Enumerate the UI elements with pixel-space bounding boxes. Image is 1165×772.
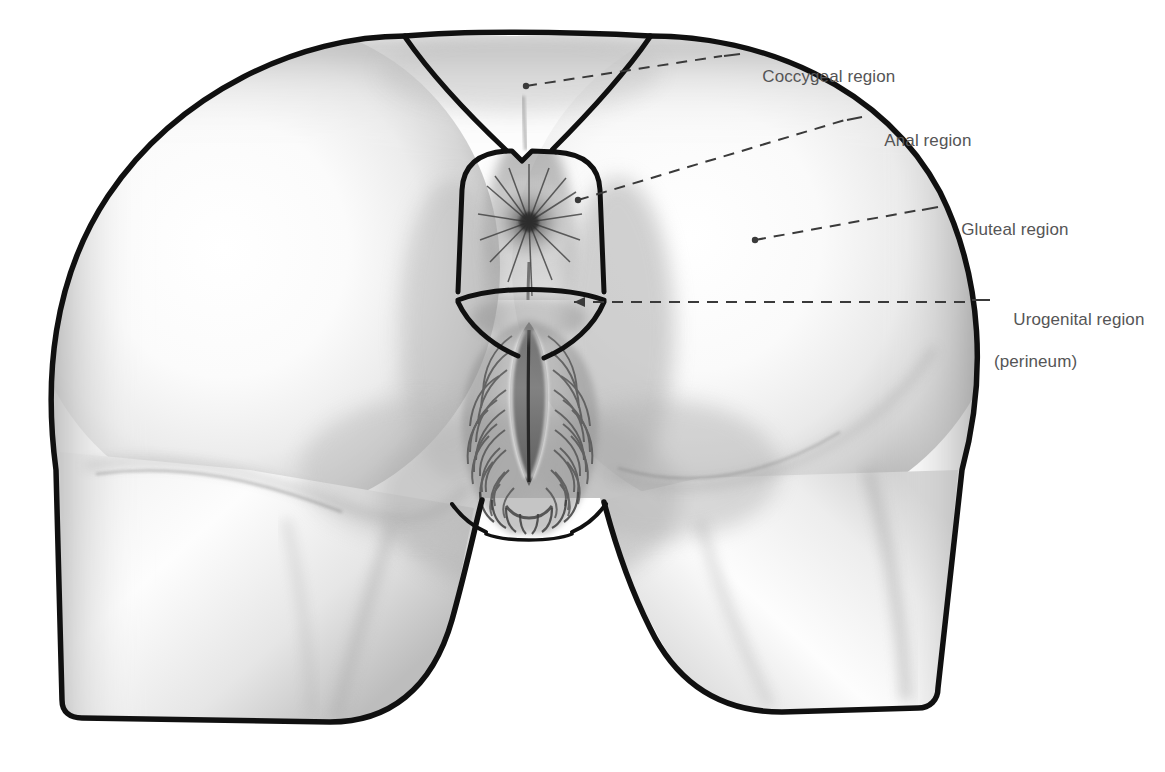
label-gluteal-region: Gluteal region (942, 198, 1069, 261)
vestibular-midline (528, 330, 529, 482)
label-urogenital-line2: (perineum) (994, 351, 1144, 372)
superior-border (405, 32, 650, 36)
label-coccygeal-line1: Coccygeal region (762, 67, 895, 86)
leader-dot-gluteal (752, 237, 758, 243)
inferior-genital-border (486, 534, 572, 540)
perineal-body-shading (471, 296, 587, 340)
label-coccygeal-region: Coccygeal region (743, 45, 895, 108)
leader-dot-coccygeal (523, 83, 529, 89)
median-raphe-upper (528, 262, 529, 300)
label-anal-line1: Anal region (884, 131, 971, 150)
anus-center (519, 212, 539, 232)
right-genital-thigh-junction (572, 504, 606, 532)
label-gluteal-line1: Gluteal region (961, 220, 1068, 239)
anatomical-figure: Coccygeal region Anal region Gluteal reg… (0, 0, 1165, 772)
label-urogenital-line1: Urogenital region (1013, 310, 1144, 329)
label-urogenital-region: Urogenital region (perineum) (994, 288, 1144, 414)
perineum-illustration-svg (0, 0, 1165, 772)
label-anal-region: Anal region (866, 109, 971, 172)
leader-dot-anal (575, 197, 581, 203)
